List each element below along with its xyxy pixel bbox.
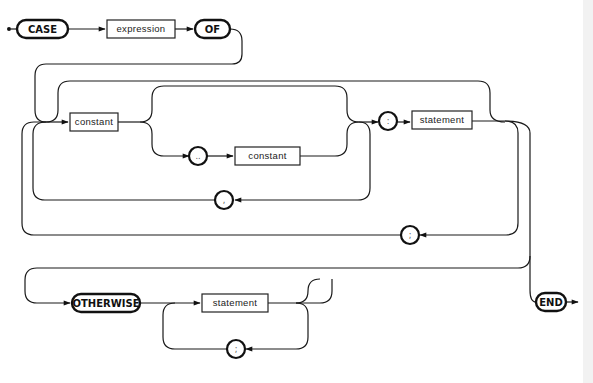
svg-text::: : [387,117,390,126]
svg-text:constant: constant [248,150,286,161]
svg-text:statement: statement [420,114,464,125]
syntax-diagram: CASE expression OF constant .. constant … [0,0,593,383]
svg-text:constant: constant [75,116,113,127]
svg-text:expression: expression [117,23,166,34]
svg-text:CASE: CASE [28,24,57,35]
keyword-case: CASE [17,20,68,38]
nonterminal-statement: statement [412,111,472,129]
keyword-end: END [536,293,566,311]
nonterminal-constant: constant [70,113,118,131]
colon-symbol-circle: : [379,112,397,130]
svg-text:;: ; [409,231,412,240]
nonterminal-expression: expression [107,20,175,38]
start-dot-icon [7,27,11,31]
comma-symbol-circle: , [215,191,233,209]
svg-text:;: ; [235,345,238,354]
svg-text:,: , [223,196,226,205]
nonterminal-statement-otherwise: statement [202,294,268,312]
svg-text:OTHERWISE: OTHERWISE [72,298,139,309]
svg-text:..: .. [195,152,200,161]
svg-text:statement: statement [213,297,257,308]
semicolon-symbol-circle: ; [401,226,419,244]
keyword-otherwise: OTHERWISE [72,294,140,312]
nonterminal-constant-range-end: constant [235,147,300,165]
svg-text:END: END [539,297,563,308]
keyword-of: OF [195,20,230,38]
semicolon-symbol-circle-otherwise: ; [227,340,245,358]
range-symbol-circle: .. [189,147,207,165]
svg-text:OF: OF [205,24,220,35]
